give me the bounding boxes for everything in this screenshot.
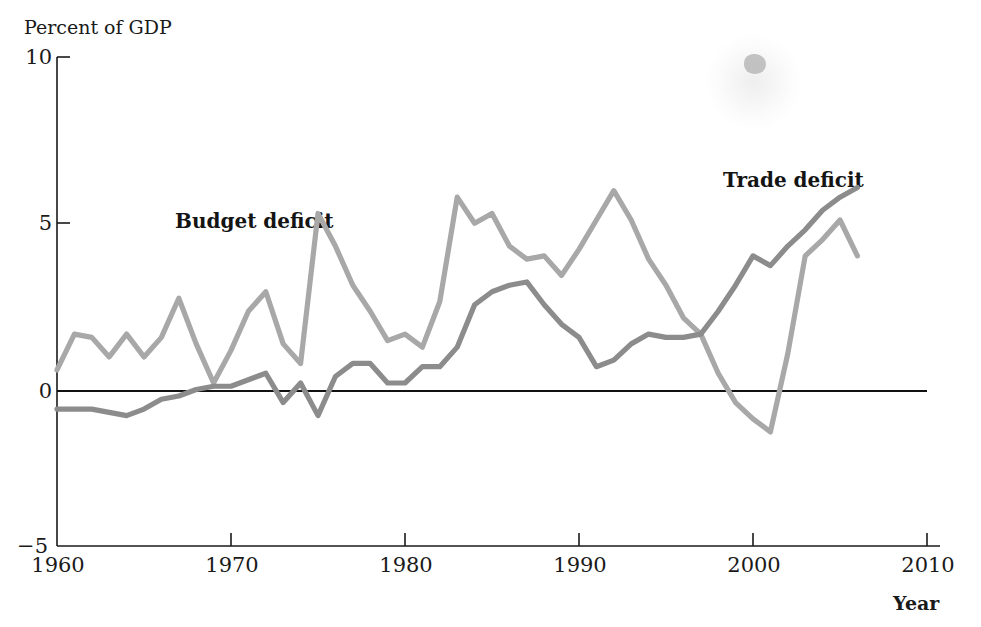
axes-lines (57, 57, 940, 546)
plot-area (0, 0, 981, 627)
chart-figure: Percent of GDP 10 5 0 −5 1960 1970 1980 … (0, 0, 981, 627)
